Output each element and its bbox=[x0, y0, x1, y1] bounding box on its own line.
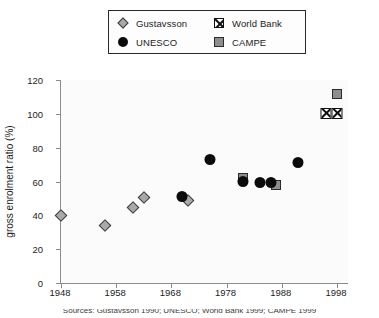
data-point-unesco bbox=[254, 174, 265, 192]
y-axis-tick bbox=[56, 249, 61, 250]
plot-inner bbox=[61, 80, 348, 283]
data-point-unesco bbox=[177, 188, 188, 206]
circle-icon bbox=[265, 177, 276, 188]
x-axis-tick bbox=[337, 283, 338, 288]
y-axis-tick-label: 80 bbox=[3, 142, 43, 153]
x-axis-tick bbox=[61, 283, 62, 288]
legend-item-world-bank: World Bank bbox=[213, 14, 305, 32]
y-axis-tick bbox=[56, 182, 61, 183]
data-point-gustavsson bbox=[57, 206, 66, 224]
square-icon bbox=[213, 37, 225, 47]
data-point-gustavsson bbox=[128, 198, 137, 216]
square-icon bbox=[332, 89, 342, 99]
diamond-icon bbox=[55, 209, 68, 222]
x-square-icon bbox=[331, 108, 342, 119]
data-point-gustavsson bbox=[101, 216, 110, 234]
scatter-chart: Gustavsson World Bank UNESCO CAMPE gross… bbox=[0, 0, 379, 318]
y-axis-tick-label: 120 bbox=[3, 75, 43, 86]
y-axis-tick-label: 100 bbox=[3, 108, 43, 119]
y-axis-tick-label: 40 bbox=[3, 210, 43, 221]
data-point-campe bbox=[332, 85, 342, 103]
x-axis-tick bbox=[227, 283, 228, 288]
plot-area bbox=[60, 80, 348, 284]
circle-icon bbox=[293, 157, 304, 168]
x-axis-tick-label: 1978 bbox=[206, 287, 246, 298]
chart-legend: Gustavsson World Bank UNESCO CAMPE bbox=[108, 10, 306, 54]
x-axis-tick-label: 1948 bbox=[40, 287, 80, 298]
data-point-gustavsson bbox=[139, 188, 148, 206]
diamond-icon bbox=[137, 191, 150, 204]
x-axis-tick bbox=[116, 283, 117, 288]
x-axis-tick-label: 1968 bbox=[150, 287, 190, 298]
x-axis-tick-label: 1998 bbox=[316, 287, 356, 298]
circle-icon bbox=[238, 176, 249, 187]
diamond-icon bbox=[117, 19, 129, 27]
diamond-icon bbox=[99, 220, 112, 233]
legend-item-campe: CAMPE bbox=[213, 33, 305, 51]
circle-icon bbox=[177, 191, 188, 202]
data-point-unesco bbox=[293, 154, 304, 172]
x-axis-tick-label: 1988 bbox=[261, 287, 301, 298]
x-square-icon bbox=[213, 18, 225, 28]
data-point-unesco bbox=[205, 151, 216, 169]
diamond-icon bbox=[126, 201, 139, 214]
figure-caption: Sources: Gustavsson 1990; UNESCO; World … bbox=[0, 309, 379, 318]
y-axis-tick-label: 20 bbox=[3, 244, 43, 255]
legend-item-gustavsson: Gustavsson bbox=[117, 14, 213, 32]
x-axis-tick bbox=[282, 283, 283, 288]
y-axis-tick bbox=[56, 148, 61, 149]
legend-label: CAMPE bbox=[232, 37, 266, 48]
x-axis-tick-label: 1958 bbox=[95, 287, 135, 298]
legend-label: Gustavsson bbox=[136, 18, 187, 29]
x-axis-tick bbox=[171, 283, 172, 288]
data-point-world-bank bbox=[331, 105, 342, 123]
data-point-world-bank bbox=[320, 105, 331, 123]
y-axis-tick-label: 60 bbox=[3, 176, 43, 187]
y-axis-tick bbox=[56, 80, 61, 81]
legend-label: World Bank bbox=[232, 18, 282, 29]
circle-icon bbox=[117, 37, 129, 47]
data-point-unesco bbox=[238, 173, 249, 191]
legend-item-unesco: UNESCO bbox=[117, 33, 213, 51]
data-point-unesco bbox=[265, 174, 276, 192]
circle-icon bbox=[205, 154, 216, 165]
y-axis-tick-label: 0 bbox=[3, 278, 43, 289]
legend-label: UNESCO bbox=[136, 37, 177, 48]
x-square-icon bbox=[320, 108, 331, 119]
x-axis-labels: 194819581968197819881998 bbox=[60, 283, 347, 303]
circle-icon bbox=[254, 177, 265, 188]
y-axis-labels: 020406080100120 bbox=[0, 80, 60, 283]
y-axis-tick bbox=[56, 114, 61, 115]
